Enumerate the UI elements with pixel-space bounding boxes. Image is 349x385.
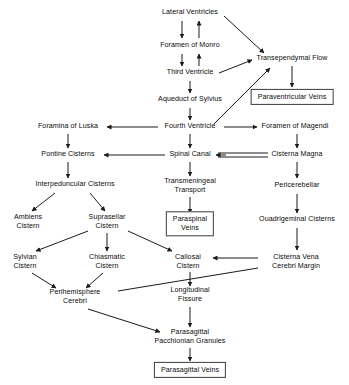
node-label-line: Cistern [89,262,125,271]
node-label-line: Veins [173,224,207,233]
node-suprasellar_cistern: SuprasellarCistern [89,213,126,231]
node-label-line: Cistern [89,222,126,231]
node-label-line: Cisterna Vena [272,253,320,262]
node-label-line: Fourth Ventricle [165,122,216,131]
node-transependymal_flow: Transependymal Flow [256,54,327,63]
edge-third-ventricle-to-transependymal [219,60,252,73]
node-pontine_cisterns: Pontine Cisterns [41,150,94,159]
node-label-line: Longitudinal [170,286,209,295]
node-label-line: Chiasmatic [89,253,125,262]
node-label-line: Fissure [170,295,209,304]
node-parasagittal_pacchionian_granules: ParasagittalPacchionian Granules [154,328,225,346]
node-paraventricular_veins: Paraventricular Veins [251,89,334,105]
node-chiasmatic_cistern: ChiasmaticCistern [89,253,125,271]
node-label-line: Interpeduncular Cisterns [35,180,114,189]
node-label-line: Foramen of Monro [160,41,220,50]
node-label-line: Transport [164,186,216,195]
node-label-line: Cisterna Magna [271,150,322,159]
node-label-line: Transmeningeal [164,177,216,186]
node-label-line: Pontine Cisterns [41,150,94,159]
node-quadrigeminal_cisterns: Ouadrigeminal Cisterns [259,215,335,224]
node-label-line: Cistern [14,222,42,231]
edge-perihemisphere-to-parasagittal-granules [88,309,160,332]
node-label-line: Third Ventricle [167,68,214,77]
node-longitudinal_fissure: LongitudinalFissure [170,286,209,304]
node-pericerebellar: Pericerebellar [275,181,320,190]
node-foramen_of_monro: Foramen of Monro [160,41,220,50]
node-label-line: Cistern [175,262,201,271]
edge-suprasellar-to-sylvian [36,231,88,251]
node-label-line: Cistern [13,262,36,271]
node-label-line: Paraventricular Veins [258,92,327,101]
node-label-line: Lateral Ventricles [162,8,218,17]
node-label-line: Sylvian [13,253,36,262]
node-paraspinal_veins: ParaspinalVeins [166,211,214,236]
node-label-line: Ouadrigeminal Cisterns [259,215,335,224]
edge-sylvian-to-perihemisphere [32,273,56,288]
node-parasagittal_veins: Parasagittal Veins [154,362,226,378]
node-lateral_ventricles: Lateral Ventricles [162,8,218,17]
node-label-line: Transependymal Flow [256,54,327,63]
node-fourth_ventricle: Fourth Ventricle [165,122,216,131]
node-sylvian_cistern: SylvianCistern [13,253,36,271]
node-ambiens_cistern: AmbiensCistern [14,213,42,231]
node-label-line: Suprasellar [89,213,126,222]
edge-interpeduncular-to-ambiens [32,193,55,211]
node-label-line: Parasagittal Veins [161,365,219,374]
node-interpeduncular_cisterns: Interpeduncular Cisterns [35,180,114,189]
diagram-canvas: Lateral VentriclesForamen of MonroThird … [0,0,349,385]
node-label-line: Foramina of Luska [38,122,98,131]
node-label-line: Paraspinal [173,215,207,224]
node-foramen_of_magendi: Foramen of Magendi [262,122,329,131]
node-label-line: Spinal Canal [169,150,210,159]
edge-chiasmatic-to-perihemisphere [86,273,103,288]
edge-lateral-ventricles-to-transependymal [224,16,264,53]
node-label-line: Aqueduct of Sylvius [158,95,222,104]
node-perihemisphere_cerebri: PerihemisphereCerebri [50,288,101,306]
node-third_ventricle: Third Ventricle [167,68,214,77]
node-cisterna_magna: Cisterna Magna [271,150,322,159]
node-label-line: Foramen of Magendi [262,122,329,131]
node-cisterna_vena_cerebri_margin: Cisterna VenaCerebri Margin [272,253,320,271]
node-aqueduct_of_sylvius: Aqueduct of Sylvius [158,95,222,104]
node-foramina_of_luska: Foramina of Luska [38,122,98,131]
node-label-line: Parasagittal [154,328,225,337]
node-label-line: Perihemisphere [50,288,101,297]
node-label-line: Cerebri [50,297,101,306]
node-callosal_cistern: CallosalCistern [175,253,201,271]
node-label-line: Ambiens [14,213,42,222]
node-label-line: Cerebri Margin [272,262,320,271]
edge-interpeduncular-to-suprasellar [90,193,105,211]
node-spinal_canal: Spinal Canal [169,150,210,159]
node-transmeningeal_transport: TransmeningealTransport [164,177,216,195]
node-label-line: Pericerebellar [275,181,320,190]
node-label-line: Pacchionian Granules [154,337,225,346]
node-label-line: Callosal [175,253,201,262]
